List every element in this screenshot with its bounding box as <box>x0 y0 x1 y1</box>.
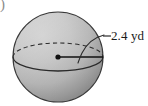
center-point-dot <box>55 54 60 59</box>
radius-measurement-label: 2.4 yd <box>111 29 144 43</box>
sphere-illustration <box>0 0 148 106</box>
sphere-figure: ) <box>0 0 148 106</box>
